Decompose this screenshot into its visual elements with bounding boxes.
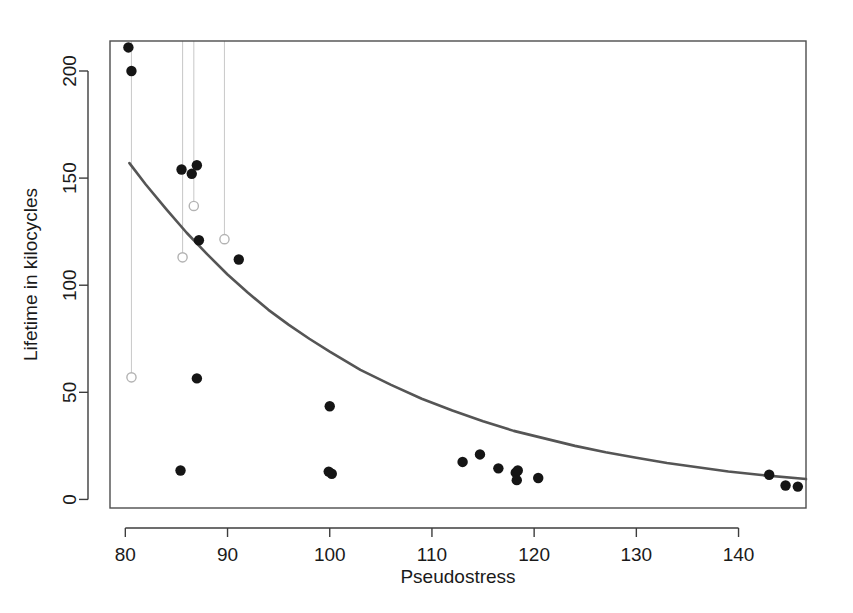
y-axis-title: Lifetime in kilocycles [20,188,41,361]
axis-titles-group: PseudostressLifetime in kilocycles [20,188,516,587]
fitted-regression-curve [129,163,806,479]
fitted-curve-line [129,163,806,479]
data-point-observed-failures-7 [192,373,202,383]
data-point-observed-failures-4 [192,160,202,170]
y-tick-label-200: 200 [59,55,80,87]
x-tick-label-100: 100 [314,544,346,565]
data-point-observed-failures-17 [512,475,522,485]
data-point-censored-runouts-3 [220,235,229,244]
scatter-plot: 8090100110120130140050100150200 Pseudost… [0,0,853,613]
axes-group: 8090100110120130140050100150200 [59,55,754,565]
data-point-observed-failures-0 [123,42,133,52]
x-tick-label-90: 90 [217,544,238,565]
data-point-observed-failures-6 [234,254,244,264]
data-point-observed-failures-19 [764,470,774,480]
x-tick-label-110: 110 [417,544,447,565]
data-point-observed-failures-21 [793,481,803,491]
plot-border [110,41,806,508]
y-tick-label-100: 100 [60,269,81,301]
data-point-censored-runouts-2 [189,201,198,210]
plot-frame [110,41,806,508]
data-points-group [123,42,803,492]
chart-page: 8090100110120130140050100150200 Pseudost… [0,0,853,613]
data-point-observed-failures-8 [175,465,185,475]
data-point-censored-runouts-0 [127,373,136,382]
data-point-observed-failures-13 [475,449,485,459]
censoring-droplines-group [131,41,224,377]
data-point-observed-failures-1 [126,66,136,76]
x-axis-title: Pseudostress [400,566,515,587]
data-point-censored-runouts-1 [178,253,187,262]
data-point-observed-failures-14 [493,463,503,473]
x-tick-label-130: 130 [620,544,652,565]
data-point-observed-failures-5 [194,235,204,245]
data-point-observed-failures-11 [325,401,335,411]
y-tick-label-150: 150 [60,162,81,194]
y-tick-label-50: 50 [60,382,81,403]
data-point-observed-failures-18 [533,473,543,483]
data-point-observed-failures-20 [780,480,790,490]
data-point-observed-failures-12 [457,457,467,467]
x-tick-label-80: 80 [115,544,136,565]
data-point-observed-failures-2 [176,164,186,174]
data-point-observed-failures-10 [327,469,337,479]
y-tick-label-0: 0 [60,494,81,505]
data-point-observed-failures-16 [513,465,523,475]
x-tick-label-140: 140 [723,544,755,565]
x-tick-label-120: 120 [518,544,550,565]
